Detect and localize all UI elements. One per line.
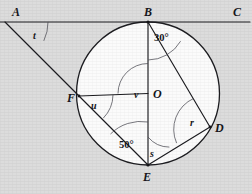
geometry-figure: A B C O F D E t 30° v u 50° s r: [0, 0, 252, 194]
angle-arc-t: [44, 22, 48, 41]
angle-label-30: 30°: [154, 32, 169, 43]
point-label-O: O: [153, 87, 162, 101]
vertex-dot-D: [209, 126, 212, 129]
angle-label-r: r: [190, 117, 194, 128]
angle-label-u: u: [91, 100, 97, 111]
point-label-A: A: [11, 5, 20, 19]
angle-label-t: t: [33, 30, 37, 41]
point-label-B: B: [143, 5, 152, 19]
point-label-E: E: [142, 170, 151, 184]
point-label-D: D: [214, 121, 224, 135]
point-label-F: F: [66, 91, 75, 105]
vertex-dot-B: [146, 20, 149, 23]
angle-label-s: s: [149, 148, 154, 159]
vertex-dot-F: [78, 95, 81, 98]
point-label-C: C: [233, 5, 242, 19]
angle-label-v: v: [134, 89, 139, 100]
vertex-dot-E: [146, 163, 149, 166]
angle-label-50: 50°: [119, 139, 134, 150]
geometry-canvas: A B C O F D E t 30° v u 50° s r: [0, 0, 252, 194]
